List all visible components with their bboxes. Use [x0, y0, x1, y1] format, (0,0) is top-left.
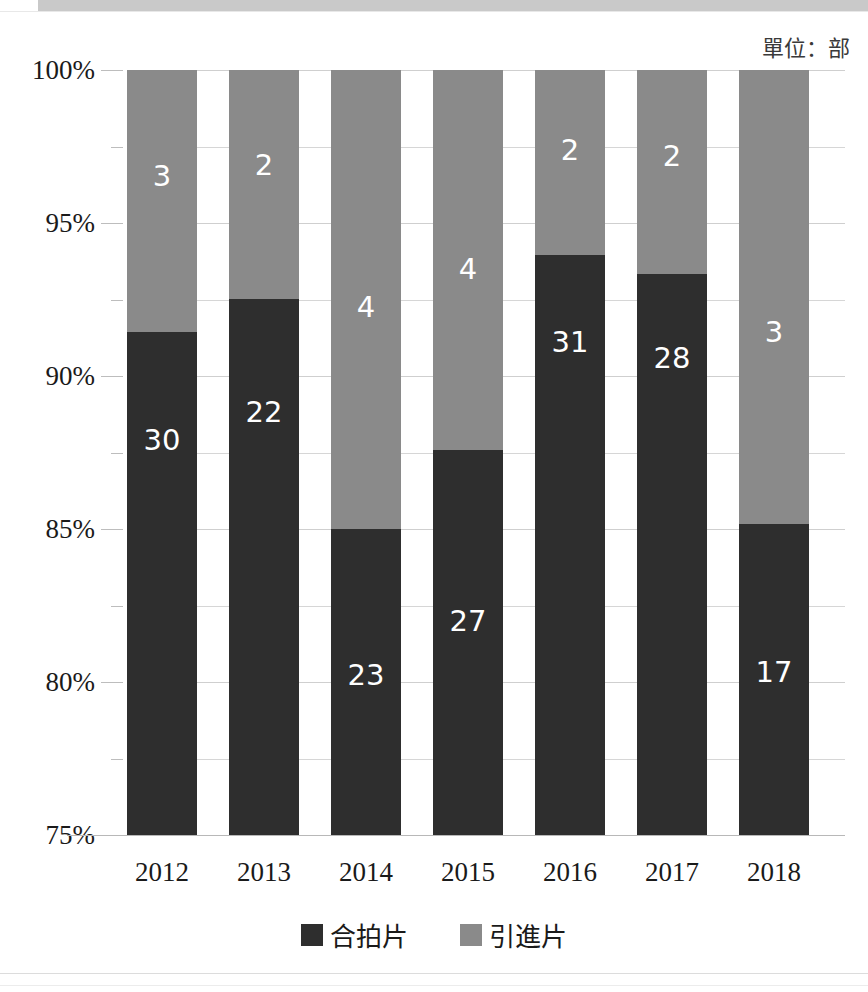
bar-segment-light[interactable]: 3: [127, 70, 197, 332]
bar-value-label: 4: [433, 252, 503, 286]
y-axis-tick-label: 90%: [46, 361, 96, 392]
bar-segment-dark[interactable]: 22: [229, 299, 299, 835]
y-tick-minor: [111, 300, 123, 301]
bar-segment-dark[interactable]: 27: [433, 450, 503, 835]
x-axis-line: [67, 835, 845, 836]
bar-group[interactable]: 2822017: [637, 70, 707, 835]
bar-group[interactable]: 3122016: [535, 70, 605, 835]
bar-value-label: 17: [739, 655, 809, 689]
y-axis-tick-label: 100%: [32, 55, 95, 86]
bar-value-label: 22: [229, 395, 299, 429]
bar-value-label: 2: [229, 148, 299, 182]
bar-group[interactable]: 2222013: [229, 70, 299, 835]
bar-series-container: 3032012222201323420142742015312201628220…: [127, 70, 845, 835]
bar-value-label: 3: [127, 159, 197, 193]
y-tick-minor: [111, 759, 123, 760]
top-decorative-band: [0, 0, 868, 12]
y-tick-major: [101, 682, 123, 683]
y-tick-minor: [111, 606, 123, 607]
bar-segment-light[interactable]: 2: [535, 70, 605, 255]
chart-legend: 合拍片引進片: [0, 916, 868, 953]
bar-segment-dark[interactable]: 31: [535, 255, 605, 835]
bar-group[interactable]: 2742015: [433, 70, 503, 835]
bar-segment-light[interactable]: 4: [331, 70, 401, 529]
y-axis-tick-label: 85%: [46, 514, 96, 545]
bar-group[interactable]: 3032012: [127, 70, 197, 835]
legend-label: 引進片: [489, 916, 567, 953]
x-axis-tick-label: 2014: [331, 857, 401, 888]
bar-segment-dark[interactable]: 30: [127, 332, 197, 835]
legend-item[interactable]: 引進片: [460, 916, 567, 953]
bar-group[interactable]: 2342014: [331, 70, 401, 835]
bar-group[interactable]: 1732018: [739, 70, 809, 835]
bar-value-label: 30: [127, 423, 197, 457]
bar-value-label: 28: [637, 341, 707, 375]
x-axis-tick-label: 2012: [127, 857, 197, 888]
bar-segment-dark[interactable]: 17: [739, 524, 809, 835]
band-fill: [38, 0, 868, 11]
x-axis-tick-label: 2015: [433, 857, 503, 888]
chart-plot-area: 100%95%90%85%80%75% 30320122222013234201…: [127, 70, 845, 835]
legend-label: 合拍片: [330, 916, 408, 953]
bottom-rule-secondary: [0, 985, 868, 986]
bar-value-label: 31: [535, 325, 605, 359]
x-axis-tick-label: 2018: [739, 857, 809, 888]
y-axis-tick-label: 95%: [46, 208, 96, 239]
y-tick-minor: [111, 147, 123, 148]
bar-segment-light[interactable]: 2: [637, 70, 707, 274]
bar-value-label: 2: [637, 139, 707, 173]
y-tick-minor: [111, 453, 123, 454]
y-tick-major: [101, 223, 123, 224]
bar-segment-dark[interactable]: 28: [637, 274, 707, 835]
unit-label: 單位：部: [762, 30, 850, 62]
bar-value-label: 2: [535, 133, 605, 167]
y-tick-major: [101, 529, 123, 530]
legend-item[interactable]: 合拍片: [301, 916, 408, 953]
bottom-rule: [0, 973, 868, 974]
y-axis-tick-label: 80%: [46, 667, 96, 698]
bar-segment-light[interactable]: 4: [433, 70, 503, 450]
bar-segment-light[interactable]: 2: [229, 70, 299, 299]
bar-segment-light[interactable]: 3: [739, 70, 809, 524]
bar-value-label: 3: [739, 315, 809, 349]
band-edge-rule: [0, 11, 868, 12]
bar-value-label: 23: [331, 658, 401, 692]
y-tick-major: [101, 376, 123, 377]
legend-swatch-icon: [301, 924, 323, 946]
x-axis-tick-label: 2017: [637, 857, 707, 888]
x-axis-tick-label: 2013: [229, 857, 299, 888]
bar-segment-dark[interactable]: 23: [331, 529, 401, 835]
bar-value-label: 4: [331, 290, 401, 324]
bar-value-label: 27: [433, 604, 503, 638]
x-axis-tick-label: 2016: [535, 857, 605, 888]
legend-swatch-icon: [460, 924, 482, 946]
y-tick-major: [101, 70, 123, 71]
